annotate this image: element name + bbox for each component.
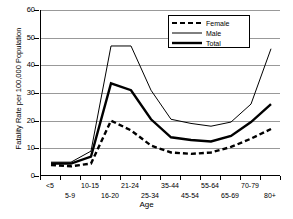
x-axis-tick-label: 70-79: [230, 182, 270, 189]
dashed-line-icon: [172, 18, 202, 28]
legend-item-total: Total: [172, 38, 246, 48]
y-axis-tick-mark: [34, 93, 39, 94]
y-axis-tick-label: 0: [14, 171, 35, 180]
x-axis-tick-label: 25-34: [130, 192, 170, 199]
x-axis-tick-label: 65-69: [210, 192, 250, 199]
x-axis-tick-mark: [60, 176, 61, 180]
legend-label-total: Total: [206, 39, 221, 48]
y-axis-tick-mark: [34, 65, 39, 66]
thick-line-icon: [172, 38, 202, 48]
y-axis-tick-mark: [34, 38, 39, 39]
y-axis-tick-label: 20: [14, 116, 35, 125]
x-axis-tick-label: 21-24: [110, 182, 150, 189]
x-axis-tick-mark: [260, 176, 261, 180]
x-axis-tick-mark: [240, 176, 241, 180]
x-axis-tick-mark: [140, 176, 141, 180]
thin-line-icon: [172, 28, 202, 38]
x-axis-tick-mark: [280, 176, 281, 180]
chart-legend: Female Male Total: [168, 15, 250, 48]
x-axis-tick-label: 10-15: [70, 182, 110, 189]
x-axis-tick-mark: [120, 176, 121, 180]
x-axis-tick-mark: [80, 176, 81, 180]
x-axis-tick-mark: [40, 176, 41, 180]
y-axis-tick-label: 10: [14, 143, 35, 152]
x-axis-tick-label: <5: [30, 182, 70, 189]
fatality-rate-line-chart: Fatality Rate per 100,000 Population 010…: [0, 0, 293, 219]
legend-item-female: Female: [172, 18, 246, 28]
x-axis-tick-mark: [160, 176, 161, 180]
y-axis-tick-mark: [34, 148, 39, 149]
legend-item-male: Male: [172, 28, 246, 38]
legend-label-female: Female: [206, 19, 229, 28]
y-axis-tick-label: 40: [14, 60, 35, 69]
y-axis-tick-label: 30: [14, 88, 35, 97]
legend-label-male: Male: [206, 29, 221, 38]
y-axis-tick-mark: [34, 176, 39, 177]
x-axis-tick-mark: [100, 176, 101, 180]
x-axis-tick-label: 35-44: [150, 182, 190, 189]
x-axis-tick-label: 55-64: [190, 182, 230, 189]
x-axis-tick-mark: [180, 176, 181, 180]
y-axis-tick-label: 60: [14, 5, 35, 14]
x-axis-tick-label: 80+: [250, 192, 290, 199]
y-axis-tick-label: 50: [14, 33, 35, 42]
x-axis-tick-label: 5-9: [50, 192, 90, 199]
y-axis-tick-mark: [34, 121, 39, 122]
y-axis-tick-mark: [34, 10, 39, 11]
x-axis-tick-label: 45-54: [170, 192, 210, 199]
x-axis-tick-mark: [200, 176, 201, 180]
x-axis-title: Age: [0, 200, 293, 209]
x-axis-tick-mark: [220, 176, 221, 180]
series-line-total: [51, 83, 271, 163]
x-axis-tick-label: 16-20: [90, 192, 130, 199]
